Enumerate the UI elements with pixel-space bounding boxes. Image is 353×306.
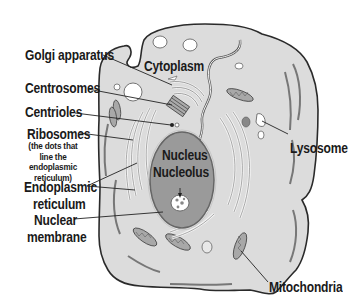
vacuole bbox=[235, 63, 243, 69]
label-endoplasmic-reticulum-line-1: Endoplasmic bbox=[24, 180, 97, 194]
label-endoplasmic-reticulum-line-2: reticulum bbox=[33, 197, 86, 211]
label-centrosomes: Centrosomes bbox=[25, 81, 100, 95]
centriole bbox=[175, 123, 179, 127]
ribosomes-note: (the dots that line the endoplasmic reti… bbox=[18, 141, 88, 183]
vacuole bbox=[114, 84, 120, 90]
label-ribosomes: Ribosomes bbox=[27, 127, 90, 141]
label-lysosome: Lysosome bbox=[290, 141, 348, 155]
label-mitochondria: Mitochondria bbox=[269, 280, 343, 294]
label-cytoplasm: Cytoplasm bbox=[144, 59, 204, 73]
vacuole bbox=[124, 83, 142, 101]
label-nucleolus: Nucleolus bbox=[153, 165, 209, 179]
vesicle-dark bbox=[242, 117, 250, 127]
label-nuclear-membrane-line-1: Nuclear bbox=[34, 213, 77, 227]
label-nucleus: Nucleus bbox=[162, 148, 208, 162]
vacuole bbox=[183, 39, 197, 51]
label-nuclear-membrane-line-2: membrane bbox=[27, 230, 87, 244]
vacuole bbox=[153, 36, 167, 48]
label-golgi-apparatus: Golgi apparatus bbox=[25, 48, 114, 62]
label-centrioles: Centrioles bbox=[25, 105, 82, 119]
vesicle bbox=[258, 131, 264, 139]
